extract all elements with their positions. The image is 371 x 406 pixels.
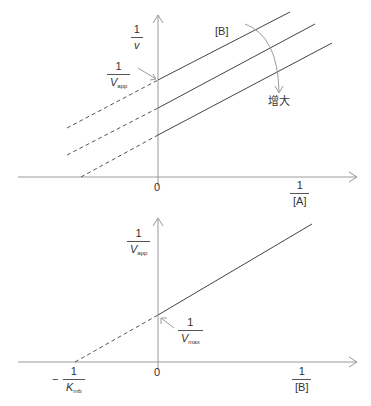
vapp-intercept-label: 1 Vapp bbox=[107, 61, 130, 89]
kmb-intercept-label: 1 Kmb bbox=[63, 366, 85, 394]
kmb-denominator: Kmb bbox=[63, 379, 85, 394]
line-b-mid bbox=[158, 24, 315, 108]
line-b-high bbox=[158, 43, 332, 135]
vmax-denominator: Vmax bbox=[178, 330, 203, 345]
vmax-den-sub: max bbox=[188, 339, 199, 345]
y-label-denominator: v bbox=[131, 37, 143, 51]
top-y-axis bbox=[153, 15, 163, 186]
x-label-denominator: [A] bbox=[290, 193, 309, 207]
vapp-numerator: 1 bbox=[114, 61, 124, 74]
bottom-y-axis bbox=[153, 218, 163, 370]
top-y-axis-label: 1 v bbox=[131, 24, 143, 51]
top-x-axis-label: 1 [A] bbox=[290, 180, 309, 207]
x-label-numerator: 1 bbox=[295, 180, 305, 193]
y-label-numerator: 1 bbox=[134, 228, 144, 241]
bottom-y-axis-label: 1 Vapp bbox=[127, 228, 150, 256]
x-label-denominator: [B] bbox=[292, 379, 311, 393]
line-b-low bbox=[158, 12, 290, 80]
top-origin-label: 0 bbox=[154, 182, 160, 193]
vapp-den-sub: app bbox=[117, 83, 127, 89]
b-concentration-label: [B] bbox=[215, 26, 228, 37]
replot-dashed bbox=[75, 315, 158, 362]
vmax-intercept-label: 1 Vmax bbox=[178, 317, 203, 345]
vmax-pointer-arrow bbox=[161, 318, 174, 328]
vapp-pointer-arrow bbox=[138, 68, 156, 80]
kmb-minus-sign: − bbox=[52, 374, 58, 385]
increase-label: 增大 bbox=[268, 96, 290, 107]
top-dashed-extrapolations bbox=[67, 80, 158, 177]
x-label-numerator: 1 bbox=[297, 366, 307, 379]
vmax-numerator: 1 bbox=[185, 317, 195, 330]
bottom-origin-label: 0 bbox=[154, 367, 160, 378]
bottom-x-axis-label: 1 [B] bbox=[292, 366, 311, 393]
diagram-canvas bbox=[0, 0, 371, 406]
vapp-denominator: Vapp bbox=[107, 74, 130, 89]
replot-line bbox=[158, 224, 312, 315]
kmb-den-sub: mb bbox=[73, 388, 81, 394]
top-lines bbox=[158, 12, 332, 135]
y-label-numerator: 1 bbox=[132, 24, 142, 37]
y-den-sub: app bbox=[137, 250, 147, 256]
kmb-numerator: 1 bbox=[69, 366, 79, 379]
y-label-denominator: Vapp bbox=[127, 241, 150, 256]
